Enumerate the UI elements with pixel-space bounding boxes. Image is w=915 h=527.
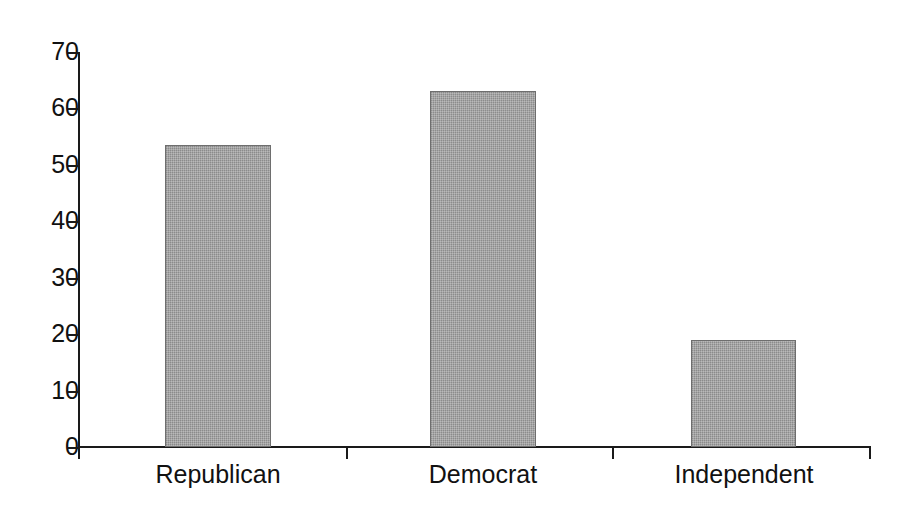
y-axis-tick-mark xyxy=(68,165,79,167)
y-axis-tick-mark xyxy=(68,108,79,110)
x-axis-label-independent: Independent xyxy=(663,461,825,489)
x-axis-tick-mark-0 xyxy=(78,447,80,459)
y-axis-tick-mark xyxy=(68,278,79,280)
y-axis-tick-mark xyxy=(68,52,79,54)
x-axis-tick-mark-2 xyxy=(612,447,614,459)
x-axis-label-democrat: Democrat xyxy=(403,461,563,489)
bar-independent xyxy=(691,340,796,447)
bar-chart-figure: 70 60 50 40 30 20 10 0 xyxy=(0,0,915,527)
x-axis-tick-mark-1 xyxy=(346,447,348,459)
x-axis-label-republican: Republican xyxy=(138,461,298,489)
bar-democrat xyxy=(430,91,536,447)
y-axis-tick-mark xyxy=(68,391,79,393)
x-axis-tick-mark-3 xyxy=(869,447,871,459)
y-axis-tick-mark xyxy=(68,334,79,336)
bar-republican xyxy=(165,145,271,447)
plot-area: 70 60 50 40 30 20 10 0 xyxy=(0,0,915,527)
y-axis-tick-mark xyxy=(68,221,79,223)
